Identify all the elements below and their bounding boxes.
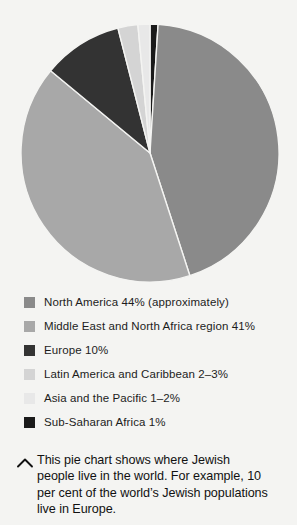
legend-item-europe: Europe 10%: [0, 341, 297, 365]
legend-item-sub-saharan-africa: Sub-Saharan Africa 1%: [0, 413, 297, 437]
legend-swatch-asia-pacific: [24, 393, 35, 404]
pie-chart-svg: [21, 24, 279, 282]
pie-chart-figure: North America 44% (approximately) Middle…: [0, 0, 297, 525]
legend-label-asia-pacific: Asia and the Pacific 1–2%: [44, 391, 180, 405]
chart-legend: North America 44% (approximately) Middle…: [0, 293, 297, 437]
figure-caption-text: This pie chart shows where Jewish people…: [37, 452, 269, 518]
legend-label-middle-east-north-africa: Middle East and North Africa region 41%: [44, 319, 255, 333]
legend-item-latin-america-caribbean: Latin America and Caribbean 2–3%: [0, 365, 297, 389]
legend-swatch-sub-saharan-africa: [24, 417, 35, 428]
legend-swatch-latin-america-caribbean: [24, 369, 35, 380]
legend-swatch-europe: [24, 345, 35, 356]
legend-item-asia-pacific: Asia and the Pacific 1–2%: [0, 389, 297, 413]
figure-caption: This pie chart shows where Jewish people…: [0, 452, 297, 518]
legend-label-north-america: North America 44% (approximately): [44, 295, 229, 309]
legend-label-latin-america-caribbean: Latin America and Caribbean 2–3%: [44, 367, 228, 381]
chevron-up-icon: [16, 456, 34, 472]
legend-label-sub-saharan-africa: Sub-Saharan Africa 1%: [44, 415, 166, 429]
pie-slices: [21, 24, 279, 282]
legend-label-europe: Europe 10%: [44, 343, 108, 357]
legend-swatch-north-america: [24, 297, 35, 308]
legend-item-middle-east-north-africa: Middle East and North Africa region 41%: [0, 317, 297, 341]
legend-item-north-america: North America 44% (approximately): [0, 293, 297, 317]
pie-chart-graphic: [0, 0, 297, 290]
legend-swatch-middle-east-north-africa: [24, 321, 35, 332]
